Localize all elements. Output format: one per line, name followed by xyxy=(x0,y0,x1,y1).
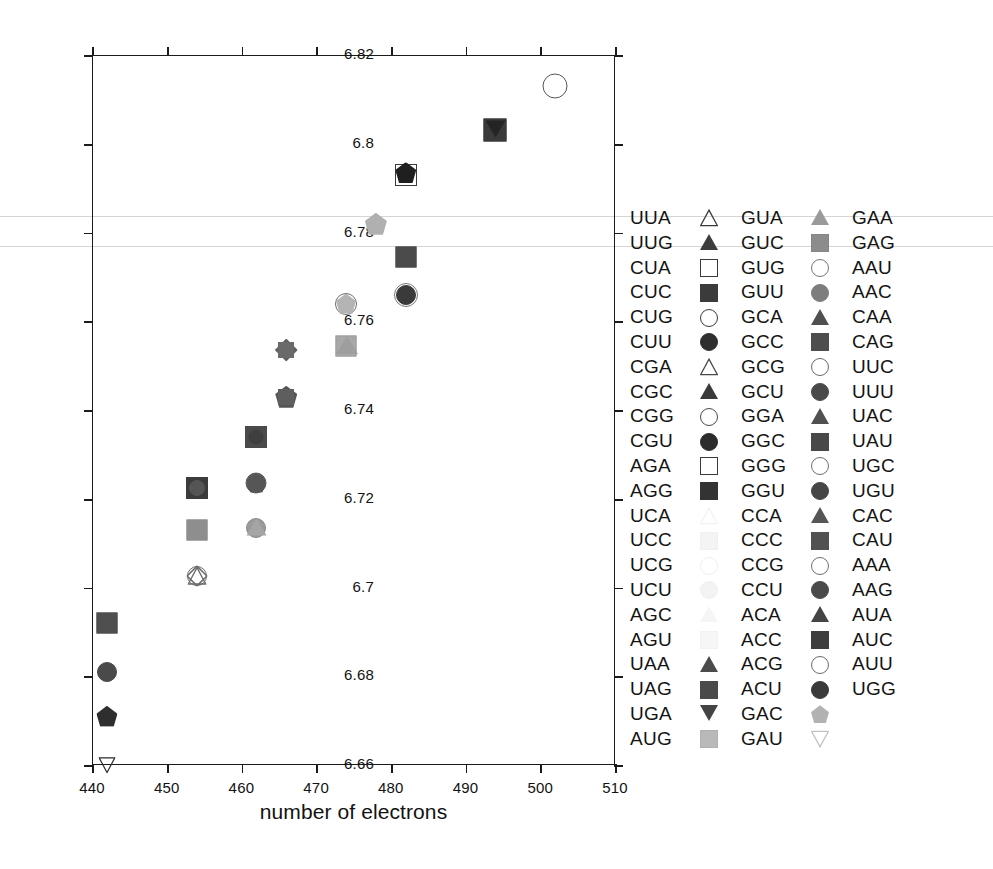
legend-item-label: CUC xyxy=(630,280,672,305)
legend-item-label: AAA xyxy=(852,553,891,578)
legend-item-UUG[interactable]: UUG xyxy=(630,231,748,256)
legend-item-ACG[interactable]: ACG xyxy=(741,652,859,677)
legend-item-CUA[interactable]: CUA xyxy=(630,256,748,281)
legend-marker-UAG xyxy=(700,681,718,699)
legend-item-UCG[interactable]: UCG xyxy=(630,553,748,578)
triangle-glyph xyxy=(336,336,358,354)
legend-item-GAA[interactable]: GAA xyxy=(852,206,970,231)
triangle-glyph xyxy=(700,209,718,227)
data-point-UUA xyxy=(186,566,207,587)
legend-item-UAA[interactable]: UAA xyxy=(630,652,748,677)
legend-item-AAU[interactable]: AAU xyxy=(852,256,970,281)
legend-item-UCC[interactable]: UCC xyxy=(630,528,748,553)
legend-item-GUG[interactable]: GUG xyxy=(741,256,859,281)
legend-item-CAA[interactable]: CAA xyxy=(852,305,970,330)
legend-item-UUA[interactable]: UUA xyxy=(630,206,748,231)
legend-item-UAC[interactable]: UAC xyxy=(852,404,970,429)
legend-item-CAU[interactable]: CAU xyxy=(852,528,970,553)
legend-item-CGC[interactable]: CGC xyxy=(630,380,748,405)
legend-marker-UUA xyxy=(700,209,718,227)
legend-item-AUA[interactable]: AUA xyxy=(852,603,970,628)
legend-item-ACA[interactable]: ACA xyxy=(741,603,859,628)
data-point-GAU xyxy=(365,213,387,235)
legend-item-ACC[interactable]: ACC xyxy=(741,628,859,653)
x-tick xyxy=(167,764,169,773)
legend-item-GUA[interactable]: GUA xyxy=(741,206,859,231)
legend-item-UUC[interactable]: UUC xyxy=(852,355,970,380)
legend-item-label: GCA xyxy=(741,305,783,330)
legend-item-GAU[interactable]: GAU xyxy=(741,727,859,752)
legend-marker-UCA xyxy=(700,507,718,525)
legend-item-AGG[interactable]: AGG xyxy=(630,479,748,504)
legend-item-label: ACC xyxy=(741,628,782,653)
legend-item-GGU[interactable]: GGU xyxy=(741,479,859,504)
legend-item-label: CUA xyxy=(630,256,671,281)
legend-item-UCA[interactable]: UCA xyxy=(630,504,748,529)
legend-item-label: GGA xyxy=(741,404,784,429)
legend-item-CUG[interactable]: CUG xyxy=(630,305,748,330)
legend-marker-GUU xyxy=(811,284,829,302)
legend-item-AGU[interactable]: AGU xyxy=(630,628,748,653)
x-tick xyxy=(466,764,468,773)
legend-item-label: AAC xyxy=(852,280,892,305)
legend-item-CAG[interactable]: CAG xyxy=(852,330,970,355)
legend-item-AGA[interactable]: AGA xyxy=(630,454,748,479)
legend-marker-CCG xyxy=(811,557,829,575)
legend-item-label: UCG xyxy=(630,553,673,578)
legend-item-GGC[interactable]: GGC xyxy=(741,429,859,454)
legend-item-ACU[interactable]: ACU xyxy=(741,677,859,702)
legend-item-label: GUC xyxy=(741,231,784,256)
legend-item-CGU[interactable]: CGU xyxy=(630,429,748,454)
legend-marker-CGC xyxy=(700,383,718,401)
legend-item-CGG[interactable]: CGG xyxy=(630,404,748,429)
legend-item-UUU[interactable]: UUU xyxy=(852,380,970,405)
legend-item-label: UAG xyxy=(630,677,672,702)
legend-item-CCA[interactable]: CCA xyxy=(741,504,859,529)
legend-item-AAA[interactable]: AAA xyxy=(852,553,970,578)
legend-item-UCU[interactable]: UCU xyxy=(630,578,748,603)
legend-item-CCC[interactable]: CCC xyxy=(741,528,859,553)
legend-item-GUU[interactable]: GUU xyxy=(741,280,859,305)
legend-item-CUU[interactable]: CUU xyxy=(630,330,748,355)
legend-item-AUC[interactable]: AUC xyxy=(852,628,970,653)
legend-item-UAU[interactable]: UAU xyxy=(852,429,970,454)
legend-item-GCC[interactable]: GCC xyxy=(741,330,859,355)
legend-item-AAG[interactable]: AAG xyxy=(852,578,970,603)
legend-item-label: CCA xyxy=(741,504,782,529)
legend-item-GUC[interactable]: GUC xyxy=(741,231,859,256)
legend-item-UGA[interactable]: UGA xyxy=(630,702,748,727)
legend-marker-UGA xyxy=(700,705,718,723)
legend-item-CAC[interactable]: CAC xyxy=(852,504,970,529)
legend-item-UGC[interactable]: UGC xyxy=(852,454,970,479)
legend-marker-CUU xyxy=(700,333,718,351)
legend-marker-GGA xyxy=(811,408,829,426)
legend-item-label: UGG xyxy=(852,677,896,702)
legend-item-GCA[interactable]: GCA xyxy=(741,305,859,330)
legend-item-CGA[interactable]: CGA xyxy=(630,355,748,380)
legend-item-AUU[interactable]: AUU xyxy=(852,652,970,677)
legend-item-GCG[interactable]: GCG xyxy=(741,355,859,380)
legend-item-GGG[interactable]: GGG xyxy=(741,454,859,479)
legend-item-label: UUA xyxy=(630,206,671,231)
legend-item-CCU[interactable]: CCU xyxy=(741,578,859,603)
x-tick xyxy=(615,764,617,773)
legend-item-GGA[interactable]: GGA xyxy=(741,404,859,429)
legend-item-GAG[interactable]: GAG xyxy=(852,231,970,256)
data-point-AAU xyxy=(486,121,505,140)
legend-item-AAC[interactable]: AAC xyxy=(852,280,970,305)
legend-item-GCU[interactable]: GCU xyxy=(741,380,859,405)
legend-item-GAC[interactable]: GAC xyxy=(741,702,859,727)
data-point-UGA xyxy=(98,757,115,774)
circle-glyph xyxy=(249,429,264,444)
data-point-GGU xyxy=(249,429,264,444)
legend-item-UGG[interactable]: UGG xyxy=(852,677,970,702)
legend-item-CUC[interactable]: CUC xyxy=(630,280,748,305)
legend-item-AUG[interactable]: AUG xyxy=(630,727,748,752)
legend-item-AGC[interactable]: AGC xyxy=(630,603,748,628)
legend-item-label: CGC xyxy=(630,380,673,405)
legend-marker-CCA xyxy=(811,507,829,525)
legend-item-UGU[interactable]: UGU xyxy=(852,479,970,504)
legend-marker-ACU xyxy=(811,681,829,699)
legend-item-CCG[interactable]: CCG xyxy=(741,553,859,578)
legend-item-UAG[interactable]: UAG xyxy=(630,677,748,702)
